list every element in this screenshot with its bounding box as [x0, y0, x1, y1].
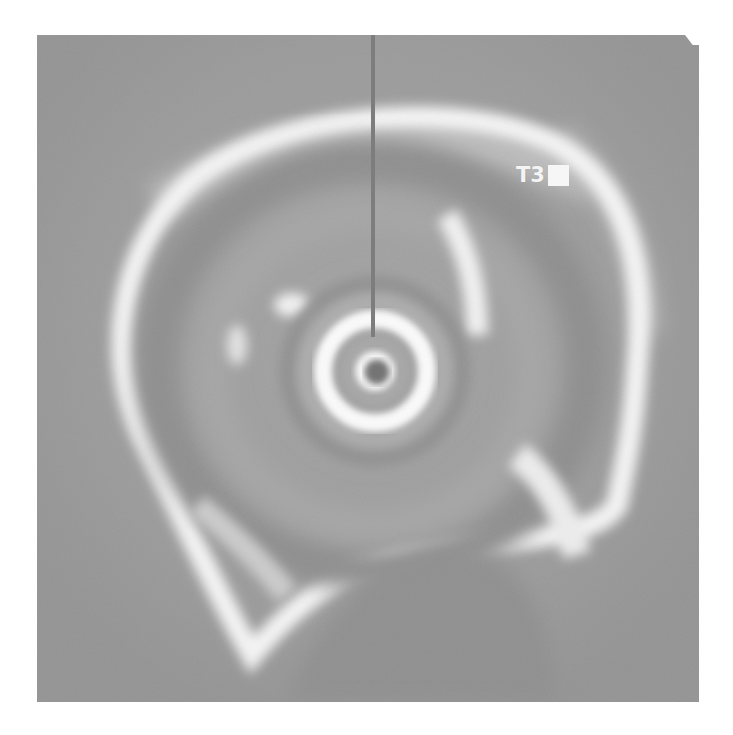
radial-ultrasound-scan — [37, 35, 699, 702]
stage-label-text: T3 — [516, 163, 545, 187]
ultrasound-image-frame: T3 — [37, 35, 699, 702]
speckle-noise — [37, 35, 699, 702]
stage-label: T3 — [516, 163, 569, 187]
stage-label-block-icon — [548, 165, 569, 186]
